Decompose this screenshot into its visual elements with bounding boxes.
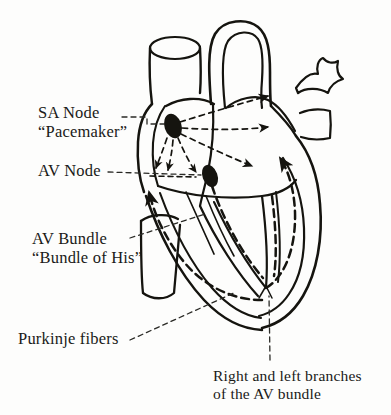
label-av-node-line1: AV Node <box>38 161 101 180</box>
caption-av-bundle-branches: Right and left branches of the AV bundle <box>213 367 362 403</box>
label-av-bundle-line1: AV Bundle <box>32 229 107 248</box>
caption-branches-line2: of the AV bundle <box>213 385 362 403</box>
internodal-pathway <box>150 176 196 177</box>
figure-canvas: SA Node “Pacemaker” AV Node AV Bundle “B… <box>0 0 391 415</box>
pulmonary-veins-outline <box>296 58 343 139</box>
aorta-outline <box>209 21 271 108</box>
heart-diagram <box>0 0 391 415</box>
label-av-node: AV Node <box>38 161 101 180</box>
interatrial-septum <box>200 104 213 206</box>
leader-purkinje <box>130 292 236 340</box>
label-av-bundle: AV Bundle “Bundle of His” <box>32 229 142 267</box>
sa-node-marker <box>161 111 185 140</box>
label-purkinje-line1: Purkinje fibers <box>18 329 119 348</box>
purkinje-fiber-paths <box>149 158 295 300</box>
av-node-marker <box>199 163 221 190</box>
superior-vena-cava-outline <box>150 37 201 104</box>
left-atrium-outline <box>158 97 296 197</box>
label-purkinje-fibers: Purkinje fibers <box>18 329 119 348</box>
label-sa-node-line2: “Pacemaker” <box>38 122 127 141</box>
left-ventricle-outline <box>259 136 321 328</box>
label-sa-node-line1: SA Node <box>38 103 99 122</box>
label-sa-node: SA Node “Pacemaker” <box>38 103 127 141</box>
bundle-branch-fork <box>259 286 272 298</box>
caption-branches-line1: Right and left branches <box>213 367 362 384</box>
label-av-bundle-line2: “Bundle of His” <box>32 248 142 267</box>
leader-branches <box>269 296 270 360</box>
